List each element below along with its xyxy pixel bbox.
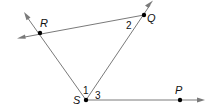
arrowhead-ray-sp — [197, 98, 205, 103]
point-p — [178, 98, 182, 102]
ray-sr — [27, 17, 86, 100]
geometry-diagram: R Q S P 1 2 3 — [0, 0, 217, 112]
angle-label-3: 3 — [95, 90, 101, 101]
label-p: P — [175, 84, 183, 96]
label-q: Q — [147, 12, 156, 24]
point-s — [84, 98, 88, 102]
arrowhead-ray-sr — [24, 12, 31, 20]
angle-label-2: 2 — [126, 20, 132, 31]
arrowhead-ray-sq — [145, 1, 153, 9]
ray-sq — [86, 5, 150, 100]
point-r — [38, 31, 42, 35]
label-r: R — [40, 17, 48, 29]
arrowhead-line-rq-left — [17, 35, 26, 39]
point-q — [142, 13, 146, 17]
angle-label-1: 1 — [83, 85, 89, 96]
label-s: S — [73, 94, 81, 106]
